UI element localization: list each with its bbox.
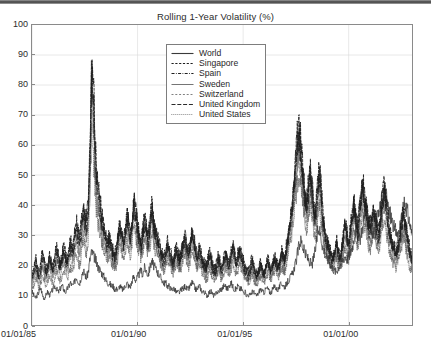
x-tick-mark [137, 322, 138, 326]
legend: WorldSingaporeSpainSwedenSwitzerlandUnit… [166, 44, 266, 124]
legend-label: United States [199, 110, 251, 119]
x-tick-label: 01/01/85 [1, 330, 36, 339]
legend-line-sample [171, 110, 194, 119]
legend-label: United Kingdom [199, 100, 260, 109]
legend-item-singapore[interactable]: Singapore [171, 58, 260, 68]
legend-label: Spain [199, 69, 221, 78]
legend-label: Singapore [199, 59, 238, 68]
legend-line-sample [171, 59, 194, 68]
legend-item-united-kingdom[interactable]: United Kingdom [171, 99, 260, 109]
x-tick-label: 01/01/00 [323, 330, 358, 339]
legend-label: World [199, 49, 221, 58]
legend-label: Switzerland [199, 90, 243, 99]
legend-item-world[interactable]: World [171, 48, 260, 58]
legend-line-sample [171, 80, 194, 89]
legend-line-sample [171, 69, 194, 78]
legend-label: Sweden [199, 80, 230, 89]
legend-line-sample [171, 49, 194, 58]
figure-container: Rolling 1-Year Volatility (%) 0102030405… [0, 6, 431, 345]
legend-item-switzerland[interactable]: Switzerland [171, 89, 260, 99]
legend-item-united-states[interactable]: United States [171, 110, 260, 120]
legend-line-sample [171, 90, 194, 99]
legend-line-sample [171, 100, 194, 109]
x-tick-label: 01/01/95 [217, 330, 252, 339]
x-tick-mark [243, 322, 244, 326]
legend-item-sweden[interactable]: Sweden [171, 79, 260, 89]
x-tick-mark [349, 322, 350, 326]
legend-item-spain[interactable]: Spain [171, 69, 260, 79]
scan-artifact-bar [0, 0, 431, 4]
x-tick-label: 01/01/90 [111, 330, 146, 339]
x-tick-mark [31, 322, 32, 326]
